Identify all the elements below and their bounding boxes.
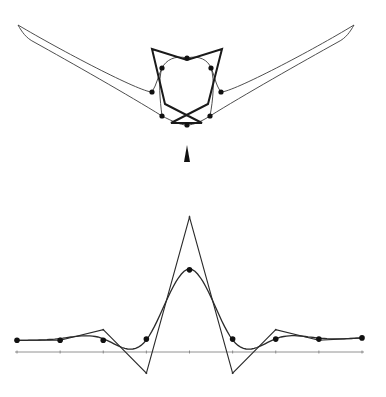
control-vertex <box>102 329 104 331</box>
smoothed-point <box>57 337 63 343</box>
control-vertex <box>145 372 147 374</box>
top-curve-point <box>184 122 189 127</box>
inner-smooth-sides <box>160 68 214 116</box>
up-arrow-icon <box>184 145 190 162</box>
top-curve-point <box>159 65 164 70</box>
control-vertex <box>232 372 234 374</box>
top-curve-point <box>184 55 189 60</box>
top-figure <box>18 25 354 128</box>
control-polygon-line <box>17 217 362 373</box>
smoothed-point <box>316 336 322 342</box>
bottom-chart <box>14 216 365 374</box>
smoothed-point <box>144 336 150 342</box>
top-curve-point <box>207 113 212 118</box>
smoothed-point <box>230 336 236 342</box>
top-curve-points <box>149 55 223 127</box>
top-curve-point <box>218 89 223 94</box>
control-vertex <box>189 216 191 218</box>
control-polygon-vertices <box>16 216 363 374</box>
smoothed-point <box>14 337 20 343</box>
diagram-canvas <box>0 0 386 397</box>
left-wing-curve <box>18 25 162 116</box>
smoothed-curve <box>17 269 362 349</box>
smoothed-point <box>100 337 106 343</box>
smoothed-point <box>273 336 279 342</box>
smoothed-point <box>187 267 193 273</box>
right-wing-curve <box>210 25 354 116</box>
smoothed-points <box>14 267 365 343</box>
top-curve-point <box>159 113 164 118</box>
top-curve-point <box>149 89 154 94</box>
top-curve-point <box>208 65 213 70</box>
smoothed-point <box>359 335 365 341</box>
control-vertex <box>275 329 277 331</box>
